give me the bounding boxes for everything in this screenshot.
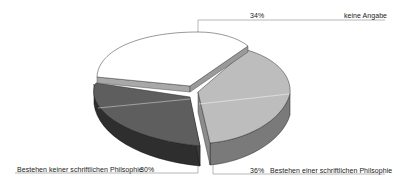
label-left-percent: 30% <box>140 166 154 173</box>
label-left-name: Bestehen keiner schriftlichen Philsophie <box>17 166 143 173</box>
label-right-percent: 36% <box>250 167 264 174</box>
label-right-name: Bestehen einer schriftlichen Philsophie <box>270 167 392 174</box>
pie-chart <box>0 0 402 187</box>
label-top-name: keine Angabe <box>344 12 387 19</box>
label-top-percent: 34% <box>250 12 264 19</box>
slice-bestehen-keiner <box>94 83 200 166</box>
leader-line-top <box>198 20 385 35</box>
